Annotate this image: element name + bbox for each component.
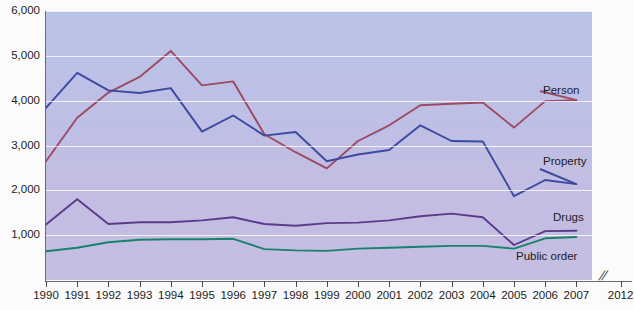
- x-axis-tick: [77, 281, 78, 287]
- series-line-person: [46, 51, 576, 168]
- x-axis-tick-label: 2007: [556, 289, 596, 301]
- series-line-drugs: [46, 199, 576, 245]
- x-axis-tick: [233, 281, 234, 287]
- plot-area: [45, 11, 592, 280]
- series-line-public-order: [46, 237, 576, 251]
- y-axis-tick-label: 5,000: [0, 50, 40, 61]
- gridline: [45, 190, 592, 191]
- x-axis-tick: [358, 281, 359, 287]
- x-axis-tick: [483, 281, 484, 287]
- gridline: [45, 146, 592, 147]
- gridline: [45, 56, 592, 57]
- gridline: [45, 101, 592, 102]
- x-axis-tick: [140, 281, 141, 287]
- x-axis-tick: [171, 281, 172, 287]
- series-line-property: [46, 73, 576, 196]
- x-axis-tick: [296, 281, 297, 287]
- x-axis-tick: [264, 281, 265, 287]
- x-axis-tick: [514, 281, 515, 287]
- x-axis-tick: [420, 281, 421, 287]
- x-axis-tick: [202, 281, 203, 287]
- series-label-property: Property: [543, 155, 586, 167]
- x-axis-tick: [46, 281, 47, 287]
- line-chart: 1,0002,0003,0004,0005,0006,000 199019911…: [0, 0, 634, 310]
- y-axis-line: [45, 11, 46, 281]
- x-axis-tick: [576, 281, 577, 287]
- y-axis-tick-label: 1,000: [0, 229, 40, 240]
- x-axis-tick: [327, 281, 328, 287]
- series-label-person: Person: [543, 84, 579, 96]
- x-axis-tick: [545, 281, 546, 287]
- series-label-public-order: Public order: [516, 250, 577, 262]
- x-axis-tick: [108, 281, 109, 287]
- x-axis-tick: [389, 281, 390, 287]
- x-axis-line: [45, 281, 632, 282]
- y-axis-tick-label: 2,000: [0, 184, 40, 195]
- y-axis-tick-label: 4,000: [0, 95, 40, 106]
- gridline: [45, 235, 592, 236]
- gridline: [45, 11, 592, 12]
- y-axis-tick-label: 3,000: [0, 140, 40, 151]
- x-axis-tick: [452, 281, 453, 287]
- y-axis-tick-label: 6,000: [0, 5, 40, 16]
- series-label-drugs: Drugs: [553, 211, 584, 223]
- x-axis-tick-label: 2012: [601, 289, 634, 301]
- x-axis-tick: [621, 281, 622, 287]
